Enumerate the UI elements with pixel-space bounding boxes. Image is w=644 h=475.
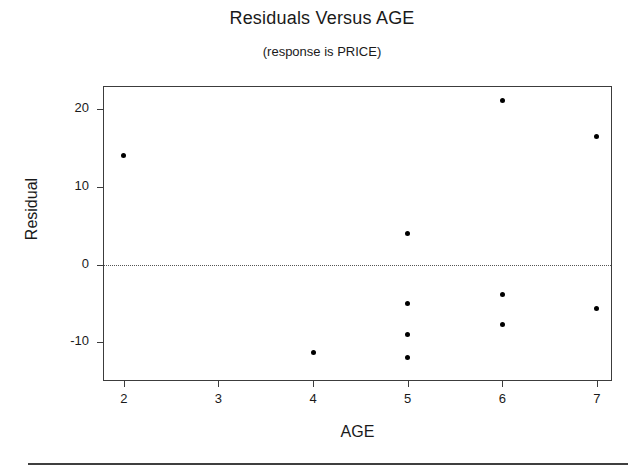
zero-reference-line [104, 265, 611, 266]
x-axis-tick-mark [124, 381, 125, 387]
y-axis-tick-mark [97, 187, 103, 188]
residual-plot-figure: Residuals Versus AGE (response is PRICE)… [0, 0, 644, 475]
y-axis-tick-label: -10 [43, 333, 89, 348]
y-axis-tick-mark [97, 342, 103, 343]
x-axis-tick-mark [218, 381, 219, 387]
chart-subtitle: (response is PRICE) [0, 44, 644, 59]
data-point [311, 350, 316, 355]
x-axis-tick-label: 5 [393, 391, 423, 406]
y-axis-label: Residual [23, 139, 41, 279]
x-axis-tick-mark [313, 381, 314, 387]
y-axis-tick-label: 20 [43, 100, 89, 115]
y-axis-tick-mark [97, 265, 103, 266]
x-axis-tick-label: 2 [109, 391, 139, 406]
data-point [500, 98, 505, 103]
data-point [594, 306, 599, 311]
x-axis-tick-label: 4 [298, 391, 328, 406]
x-axis-tick-label: 7 [582, 391, 612, 406]
x-axis-tick-mark [502, 381, 503, 387]
x-axis-tick-label: 3 [203, 391, 233, 406]
y-axis-tick-label: 10 [43, 178, 89, 193]
chart-title: Residuals Versus AGE [0, 8, 644, 29]
y-axis-tick-label: 0 [43, 256, 89, 271]
x-axis-tick-mark [597, 381, 598, 387]
data-point [405, 301, 410, 306]
x-axis-tick-mark [408, 381, 409, 387]
y-axis-tick-mark [97, 109, 103, 110]
x-axis-tick-label: 6 [487, 391, 517, 406]
data-point [500, 322, 505, 327]
plot-area [103, 86, 612, 381]
footer-divider [28, 463, 628, 465]
x-axis-label: AGE [103, 423, 612, 441]
